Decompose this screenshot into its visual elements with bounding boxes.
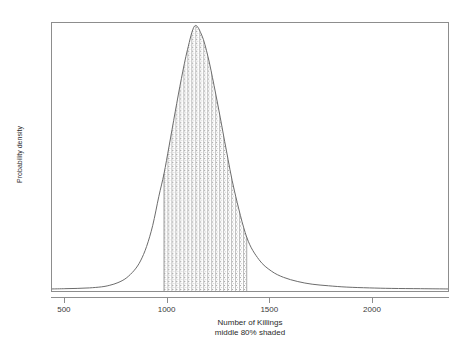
density-plot-figure: 500100015002000 Number of Killings middl… xyxy=(0,0,472,349)
shaded-region-group xyxy=(164,23,247,291)
x-axis-tick-label: 1500 xyxy=(239,305,299,315)
x-axis-tick xyxy=(64,297,65,303)
y-axis-title: Probability density xyxy=(15,75,24,235)
x-axis-tick xyxy=(269,297,270,303)
x-axis-tick-label: 500 xyxy=(34,305,94,315)
x-axis-tick-label: 2000 xyxy=(342,305,402,315)
x-axis-subtitle: middle 80% shaded xyxy=(51,328,449,338)
plot-area xyxy=(51,22,449,292)
density-curve-svg xyxy=(52,23,448,291)
x-axis-title: Number of Killings xyxy=(51,318,449,328)
x-axis-tick-label: 1000 xyxy=(137,305,197,315)
density-curve xyxy=(52,25,448,288)
x-axis-tick xyxy=(372,297,373,303)
x-axis-line xyxy=(51,297,449,298)
shaded-middle-80-region xyxy=(164,23,247,291)
x-axis-tick xyxy=(167,297,168,303)
